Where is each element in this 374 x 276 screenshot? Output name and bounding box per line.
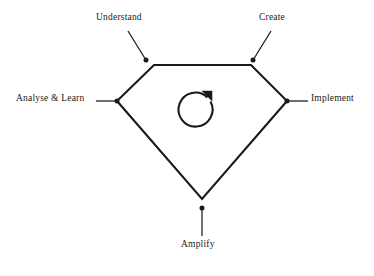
leader-create [251, 31, 272, 63]
node-dot-implement [285, 99, 290, 104]
node-label-analyse-learn: Analyse & Learn [16, 94, 84, 104]
refresh-clockwise-icon [179, 91, 213, 126]
diagram-canvas: Understand Create Implement Amplify Anal… [0, 0, 374, 276]
node-dot-amplify [200, 206, 205, 211]
node-dot-analyse-learn [115, 99, 120, 104]
leader-implement [285, 99, 309, 104]
leader-amplify [200, 206, 205, 237]
pentagon-outline [117, 65, 287, 199]
node-label-understand: Understand [96, 13, 142, 23]
node-label-amplify: Amplify [181, 240, 215, 250]
node-dot-create [251, 58, 256, 63]
cycle-diagram-graphic [0, 0, 374, 276]
node-label-create: Create [259, 13, 285, 23]
node-dot-understand [144, 58, 149, 63]
leader-understand [128, 31, 149, 63]
leader-analyse-learn [96, 99, 120, 104]
node-label-implement: Implement [311, 94, 354, 104]
